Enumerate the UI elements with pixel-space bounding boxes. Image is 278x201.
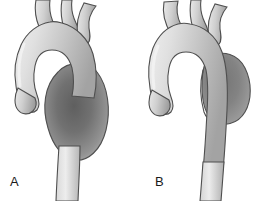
descending-aorta xyxy=(56,146,80,201)
panel-a-label: A xyxy=(10,175,19,188)
descending-aorta xyxy=(200,162,224,201)
panel-b-saccular: B xyxy=(139,0,278,201)
panel-a-fusiform: A xyxy=(0,0,139,201)
panel-b-label: B xyxy=(155,175,164,188)
panel-a-illustration xyxy=(0,0,139,201)
panel-b-illustration xyxy=(139,0,278,201)
figure-container: A xyxy=(0,0,278,201)
